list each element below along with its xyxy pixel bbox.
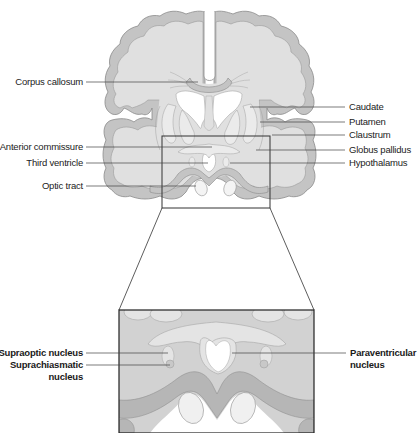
label-suprachiasmatic: Suprachiasmatic bbox=[10, 359, 83, 370]
label-corpus-callosum: Corpus callosum bbox=[15, 76, 83, 87]
label-globus-pallidus: Globus pallidus bbox=[349, 144, 411, 155]
label-putamen: Putamen bbox=[349, 116, 386, 127]
label-claustrum: Claustrum bbox=[349, 129, 391, 140]
suprachiasmatic-nucleus-left bbox=[166, 360, 174, 368]
label-supraoptic-nucleus: Supraoptic nucleus bbox=[0, 347, 83, 358]
label-suprachiasmatic-nucleus: nucleus bbox=[49, 371, 84, 382]
label-third-ventricle: Third ventricle bbox=[26, 157, 83, 168]
label-paraventricular-nucleus: nucleus bbox=[350, 359, 385, 370]
septum bbox=[204, 96, 214, 131]
label-caudate: Caudate bbox=[349, 101, 384, 112]
inset-magnified-hypothalamus bbox=[119, 304, 314, 433]
label-hypothalamus: Hypothalamus bbox=[349, 157, 407, 168]
suprachiasmatic-nucleus-right bbox=[260, 360, 268, 368]
coronal-section bbox=[103, 11, 316, 206]
label-anterior-commissure: Anterior commissure bbox=[0, 141, 83, 152]
hypothalamic-nucleus-right bbox=[223, 157, 229, 167]
label-optic-tract: Optic tract bbox=[42, 180, 83, 191]
zoom-connector-right bbox=[270, 208, 314, 310]
hypothalamic-nucleus-left bbox=[189, 157, 195, 167]
label-paraventricular: Paraventricular bbox=[350, 347, 416, 358]
zoom-connector-left bbox=[119, 208, 162, 310]
longitudinal-fissure bbox=[204, 12, 215, 81]
